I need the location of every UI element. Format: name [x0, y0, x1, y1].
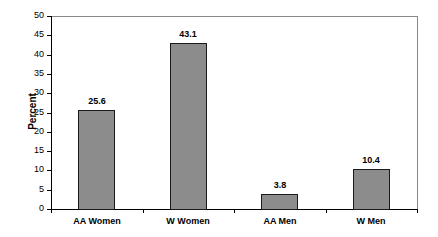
y-tick-label: 35 [24, 68, 44, 78]
x-category-label: AA Men [235, 216, 325, 226]
y-tick [47, 93, 51, 94]
y-tick-label: 45 [24, 29, 44, 39]
y-tick [47, 190, 51, 191]
y-tick-label: 25 [24, 107, 44, 117]
y-tick-label: 5 [24, 184, 44, 194]
y-tick [47, 113, 51, 114]
bar-chart: Percent 0510152025303540455025.6AA Women… [0, 0, 438, 237]
y-tick [47, 170, 51, 171]
y-tick [47, 151, 51, 152]
value-label: 10.4 [346, 155, 396, 165]
y-axis-line [51, 16, 52, 210]
y-tick-label: 15 [24, 145, 44, 155]
bar-w-women [170, 43, 207, 210]
y-tick [47, 55, 51, 56]
y-tick [47, 74, 51, 75]
y-tick-label: 20 [24, 126, 44, 136]
y-tick-label: 10 [24, 164, 44, 174]
bar-aa-men [261, 194, 298, 210]
value-label: 43.1 [163, 29, 213, 39]
x-tick [326, 209, 327, 213]
y-tick [47, 132, 51, 133]
bar-aa-women [78, 110, 115, 210]
y-tick [47, 35, 51, 36]
x-category-label: AA Women [52, 216, 142, 226]
y-tick-label: 40 [24, 49, 44, 59]
bar-w-men [353, 169, 390, 210]
value-label: 25.6 [72, 96, 122, 106]
x-category-label: W Men [326, 216, 416, 226]
x-tick [417, 209, 418, 213]
x-tick [143, 209, 144, 213]
y-tick [47, 16, 51, 17]
y-tick-label: 0 [24, 203, 44, 213]
x-tick [234, 209, 235, 213]
x-category-label: W Women [143, 216, 233, 226]
value-label: 3.8 [255, 180, 305, 190]
y-tick-label: 50 [24, 10, 44, 20]
x-tick [51, 209, 52, 213]
y-tick-label: 30 [24, 87, 44, 97]
